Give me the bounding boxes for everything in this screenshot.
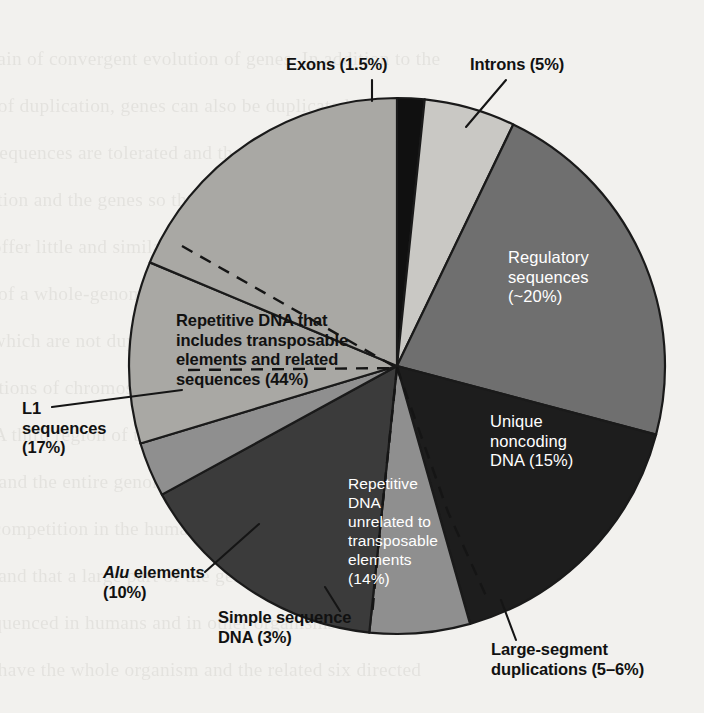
slice-label-exons: Exons (1.5%) [286,55,388,75]
slice-label-introns: Introns (5%) [470,55,564,75]
genome-composition-pie-figure: Exons (1.5%) Introns (5%) Regulatory seq… [0,0,704,713]
slice-label-regulatory-sequences: Regulatory sequences (~20%) [508,248,589,307]
slice-label-repetitive-dna-unrelated: Repetitive DNA unrelated to transposable… [348,474,438,588]
slice-label-alu-elements: Alu elements (10%) [103,563,205,602]
slice-label-unique-noncoding-dna: Unique noncoding DNA (15%) [490,412,573,471]
slice-label-simple-sequence-dna: Simple sequence DNA (3%) [218,608,351,647]
annotation-label-repetitive-transposable-44: Repetitive DNA that includes transposabl… [176,311,348,389]
slice-label-large-segment-duplications: Large-segment duplications (5–6%) [491,640,644,679]
alu-elements-genus-italic: Alu [103,563,129,581]
pie-chart-svg [0,0,704,713]
slice-label-l1-sequences: L1 sequences (17%) [22,399,106,458]
